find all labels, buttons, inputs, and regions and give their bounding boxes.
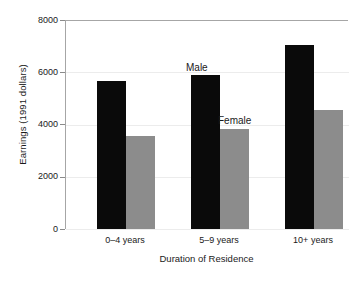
bar-female-5-9-years [220, 129, 249, 229]
bar-male-0-4-years [97, 81, 126, 229]
y-tick-label-0: 0 [18, 224, 58, 234]
y-tick-label-2000: 2000 [18, 171, 58, 181]
bar-male-10-plus-years [285, 45, 314, 229]
series-annotation-male: Male [186, 62, 208, 73]
x-axis-tick-labels: 0–4 years 5–9 years 10+ years [65, 234, 348, 248]
y-tick-label-8000: 8000 [18, 15, 58, 25]
bar-chart-figure: Earnings (1991 dollars) 8000 6000 4000 2… [0, 0, 363, 283]
x-axis-title: Duration of Residence [65, 252, 348, 265]
y-tick-label-4000: 4000 [18, 119, 58, 129]
bar-female-0-4-years [126, 136, 155, 230]
y-axis-tick-labels: 8000 6000 4000 2000 0 [18, 0, 58, 283]
y-tick-mark-0 [60, 229, 65, 230]
bar-male-5-9-years [191, 75, 220, 229]
gridline-0 [66, 229, 349, 230]
series-annotation-female: Female [218, 115, 251, 126]
y-tick-label-6000: 6000 [18, 67, 58, 77]
plot-area: Male Female [65, 20, 348, 229]
bar-female-10-plus-years [314, 110, 343, 229]
x-tick-label-5-9-years: 5–9 years [174, 234, 264, 246]
x-tick-label-10-plus-years: 10+ years [268, 234, 358, 246]
x-tick-label-0-4-years: 0–4 years [80, 234, 170, 246]
